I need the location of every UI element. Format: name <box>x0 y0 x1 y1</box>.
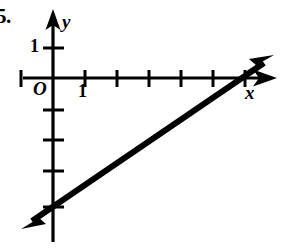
graph-figure: 5. y x O 1 1 <box>0 0 284 250</box>
x-axis-tick-label-1: 1 <box>78 82 87 100</box>
x-axis-label: x <box>245 83 255 102</box>
problem-number: 5. <box>0 6 11 27</box>
origin-label: O <box>33 79 47 98</box>
y-axis-tick-label-1: 1 <box>30 37 39 55</box>
y-axis-label: y <box>62 12 70 31</box>
coordinate-plane-svg <box>0 0 284 250</box>
